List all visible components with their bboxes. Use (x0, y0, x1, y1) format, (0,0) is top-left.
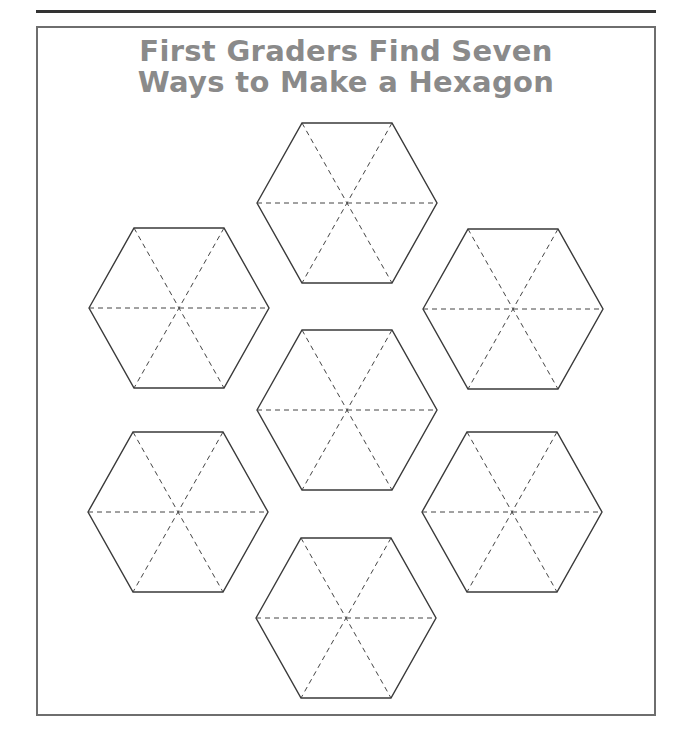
hexagon-lower-right (422, 432, 602, 592)
hexagon-lower-left (88, 432, 268, 592)
hexagon-upper-left (89, 228, 269, 388)
hexagon-bottom (256, 538, 436, 698)
hexagon-upper-right (423, 229, 603, 389)
hexagon-top (257, 123, 437, 283)
hexagon-center (257, 330, 437, 490)
hexagon-grid (0, 0, 684, 742)
